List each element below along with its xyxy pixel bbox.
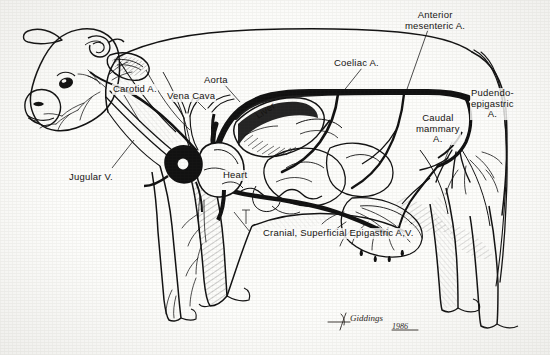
label-vena-cava: Vena Cava bbox=[166, 91, 216, 102]
label-cranial-superficial-epigastric: Cranial, Superficial Epigastric A,V. bbox=[262, 228, 414, 239]
label-caudal-mammary-a: Caudal mammary A. bbox=[415, 113, 461, 145]
label-jugular-v: Jugular V. bbox=[68, 172, 114, 183]
signature-artist: Giddings bbox=[350, 313, 383, 323]
label-coeliac-a: Coeliac A. bbox=[333, 58, 380, 69]
diagram-canvas: Carotid A. Vena Cava Aorta Coeliac A. An… bbox=[0, 0, 550, 355]
label-aorta: Aorta bbox=[203, 75, 229, 86]
signature-year: 1986 bbox=[392, 322, 408, 331]
label-heart: Heart bbox=[222, 170, 248, 181]
label-anterior-mesenteric-a: Anterior mesenteric A. bbox=[404, 10, 466, 31]
label-carotid-a: Carotid A. bbox=[112, 84, 158, 95]
label-pudendo-epigastric-a: Pudendo- epigastric A. bbox=[470, 88, 515, 120]
